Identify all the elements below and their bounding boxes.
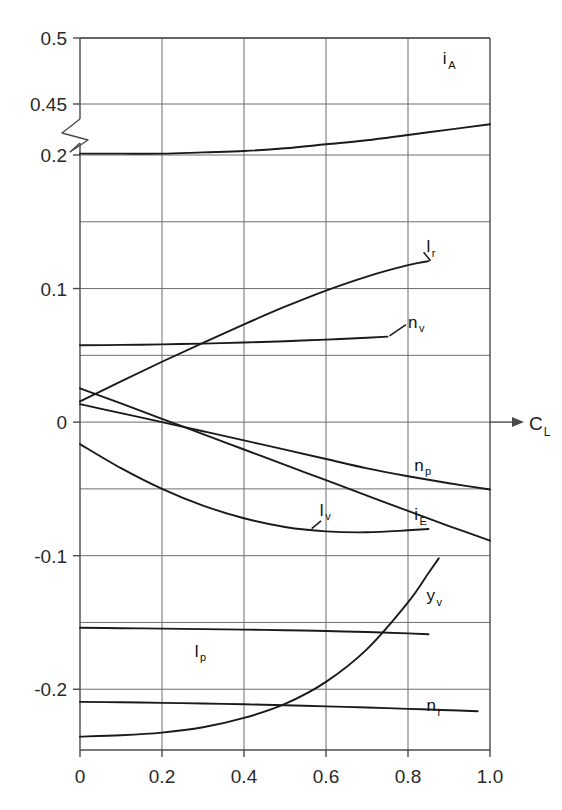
y-tick-label: 0.2 <box>41 145 67 166</box>
x-tick-label: 0.8 <box>395 766 421 787</box>
x-axis-title-subscript: L <box>544 425 551 439</box>
curve-label-subscript: v <box>419 322 425 334</box>
x-tick-label: 0.4 <box>231 766 258 787</box>
y-tick-label: 0 <box>56 412 67 433</box>
curve-label-subscript: p <box>200 651 206 663</box>
x-tick-label: 0 <box>75 766 86 787</box>
curve-label-subscript: r <box>437 706 441 718</box>
x-tick-label: 0.2 <box>149 766 175 787</box>
curve-label-base: n <box>414 456 423 475</box>
curve-label-base: l <box>320 501 324 520</box>
y-tick-label: 0.5 <box>41 28 67 49</box>
curve-label-base: n <box>426 696 435 715</box>
curve-label-base: i <box>414 505 418 524</box>
curve-label-base: n <box>408 313 417 332</box>
curve-label-subscript: v <box>436 596 442 608</box>
curve-label-base: i <box>443 49 447 68</box>
lateral-derivatives-chart: iCiAlrnvnpiElvyvlpnr 00.20.40.60.81.0 0.… <box>0 0 562 810</box>
curve-label-base: y <box>426 586 435 605</box>
curve-label-subscript: r <box>432 247 436 259</box>
y-tick-label: 0.1 <box>41 279 67 300</box>
y-tick-label: 0.45 <box>30 94 67 115</box>
x-axis-title-base: C <box>529 413 543 434</box>
x-tick-label: 1.0 <box>477 766 503 787</box>
x-tick-label: 0.6 <box>313 766 339 787</box>
curve-label-base: l <box>195 642 199 661</box>
curve-label-subscript: p <box>425 465 431 477</box>
curve-label-base: l <box>426 237 430 256</box>
curve-label-subscript: E <box>419 515 426 527</box>
y-tick-label: -0.2 <box>34 679 67 700</box>
curve-label-subscript: A <box>448 59 456 71</box>
chart-figure: iCiAlrnvnpiElvyvlpnr 00.20.40.60.81.0 0.… <box>0 0 562 810</box>
y-tick-label: -0.1 <box>34 546 67 567</box>
curve-label-subscript: v <box>325 510 331 522</box>
